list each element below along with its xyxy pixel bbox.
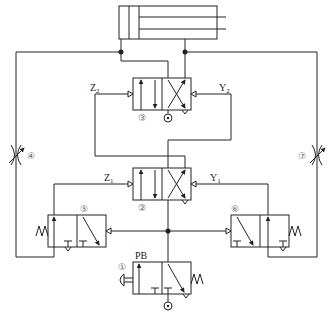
supply-line (111, 200, 226, 262)
label-6: ⑥ (231, 204, 239, 214)
valve-2: ② (128, 168, 196, 213)
signal-z2: Z2 (90, 82, 100, 95)
label-4: ④ (27, 151, 35, 161)
valve-6: ⑥ (226, 204, 301, 251)
label-pb: PB (135, 250, 148, 261)
valve-3: ③ (128, 78, 196, 123)
flow-control-valve-4: ④ (9, 145, 35, 165)
double-acting-cylinder (119, 6, 226, 39)
signal-y2: Y2 (219, 82, 230, 95)
label-1: ① (118, 262, 126, 272)
label-2: ② (138, 203, 146, 213)
label-5: ⑤ (80, 204, 88, 214)
flow-control-valve-7: ⑦ (298, 145, 325, 165)
valve-1-push-button: PB ① (118, 250, 203, 310)
signal-z1: Z1 (104, 172, 114, 185)
push-button-icon (120, 274, 124, 286)
label-7: ⑦ (298, 151, 306, 161)
valve-5: ⑤ (36, 204, 111, 251)
signal-y1: Y1 (210, 172, 221, 185)
label-3: ③ (138, 113, 146, 123)
pneumatic-circuit-diagram: ④ ⑦ ③ Z2 Y2 (0, 0, 330, 317)
junction-dot (166, 229, 171, 234)
